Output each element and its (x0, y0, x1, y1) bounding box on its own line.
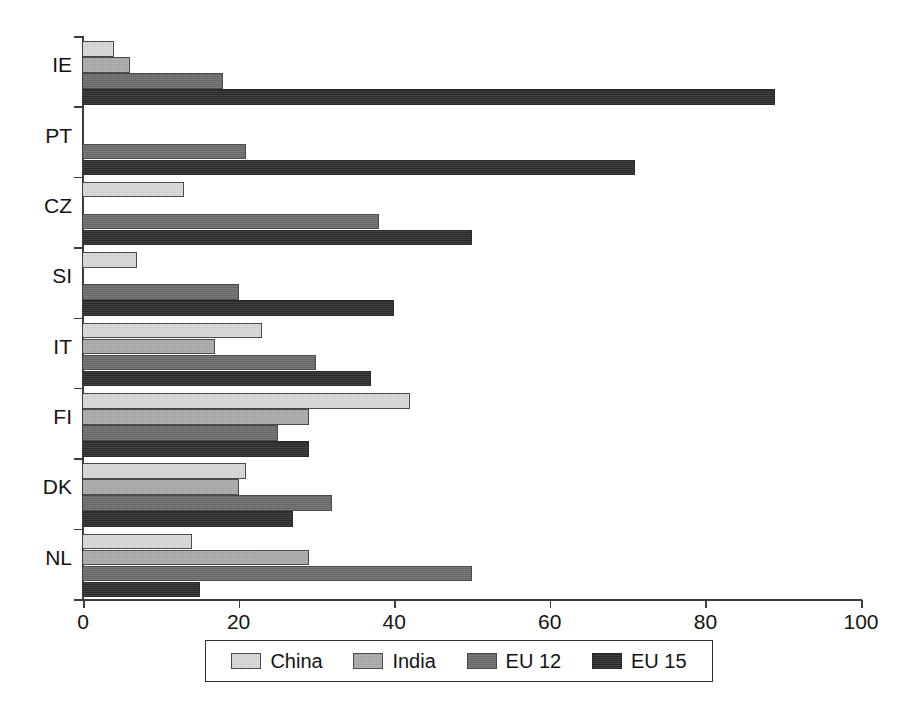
y-axis-label-ie: IE (52, 53, 72, 77)
y-axis-tick (74, 177, 83, 179)
x-axis-tick-label: 60 (538, 610, 561, 634)
legend-swatch-icon (467, 653, 497, 669)
legend-label: China (270, 650, 322, 673)
bar-ie-india (83, 57, 130, 73)
bar-fi-eu-15 (83, 441, 309, 457)
bar-si-eu-15 (83, 300, 394, 316)
bar-pt-eu-12 (83, 144, 246, 160)
bar-pt-eu-15 (83, 160, 635, 176)
bar-nl-eu-12 (83, 566, 472, 582)
x-axis-line (82, 599, 862, 601)
bar-dk-eu-12 (83, 495, 332, 511)
bar-ie-eu-12 (83, 73, 223, 89)
bar-it-india (83, 339, 215, 355)
bar-nl-eu-15 (83, 582, 200, 598)
x-axis-tick-label: 100 (843, 610, 878, 634)
bar-cz-eu-12 (83, 214, 379, 230)
bar-si-china (83, 252, 137, 268)
legend-item-china[interactable]: China (231, 650, 322, 673)
y-axis-tick (74, 599, 83, 601)
y-axis-label-nl: NL (45, 546, 72, 570)
bar-nl-china (83, 534, 192, 550)
y-axis-label-fi: FI (53, 405, 72, 429)
legend-label: EU 15 (631, 650, 687, 673)
x-axis-tick (83, 600, 85, 608)
x-axis-tick-label: 40 (383, 610, 406, 634)
chart-legend: ChinaIndiaEU 12EU 15 (205, 640, 713, 682)
legend-item-india[interactable]: India (353, 650, 435, 673)
y-axis-tick (74, 247, 83, 249)
legend-label: EU 12 (506, 650, 562, 673)
y-axis-label-it: IT (53, 335, 72, 359)
x-axis-tick-label: 80 (694, 610, 717, 634)
bar-ie-eu-15 (83, 89, 775, 105)
x-axis-tick-label: 0 (77, 610, 89, 634)
legend-item-eu-15[interactable]: EU 15 (592, 650, 687, 673)
legend-item-eu-12[interactable]: EU 12 (467, 650, 562, 673)
y-axis-label-si: SI (52, 264, 72, 288)
y-axis-tick (74, 529, 83, 531)
legend-swatch-icon (353, 653, 383, 669)
y-axis-tick (74, 36, 83, 38)
x-axis-tick (394, 600, 396, 608)
legend-label: India (392, 650, 435, 673)
bar-it-china (83, 323, 262, 339)
y-axis-tick (74, 458, 83, 460)
bar-cz-china (83, 182, 184, 198)
bar-it-eu-15 (83, 371, 371, 387)
bar-chart: IEPTCZSIITFIDKNL 020406080100 ChinaIndia… (0, 0, 914, 722)
bar-cz-eu-15 (83, 230, 472, 246)
bar-dk-china (83, 463, 246, 479)
bar-dk-india (83, 479, 239, 495)
x-axis-tick (239, 600, 241, 608)
y-axis-label-cz: CZ (44, 194, 72, 218)
bar-dk-eu-15 (83, 511, 293, 527)
bar-nl-india (83, 550, 309, 566)
legend-swatch-icon (231, 653, 261, 669)
bar-si-eu-12 (83, 284, 239, 300)
bar-it-eu-12 (83, 355, 316, 371)
bar-fi-eu-12 (83, 425, 278, 441)
bar-ie-china (83, 41, 114, 57)
x-axis-tick-label: 20 (227, 610, 250, 634)
y-axis-tick (74, 388, 83, 390)
y-axis-label-pt: PT (45, 124, 72, 148)
x-axis-tick (705, 600, 707, 608)
x-axis-tick (861, 600, 863, 608)
bar-fi-india (83, 409, 309, 425)
y-axis-label-dk: DK (43, 475, 72, 499)
y-axis-tick (74, 106, 83, 108)
bar-fi-china (83, 393, 410, 409)
y-axis-tick (74, 318, 83, 320)
x-axis-tick (550, 600, 552, 608)
legend-swatch-icon (592, 653, 622, 669)
plot-area (83, 36, 861, 599)
